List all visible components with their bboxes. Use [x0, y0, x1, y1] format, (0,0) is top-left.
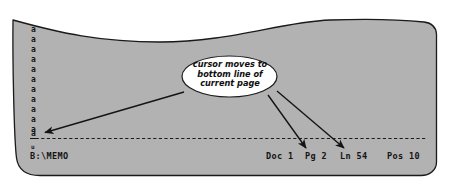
status-filename: B:\MEMO: [30, 152, 69, 161]
status-line: Ln 54: [340, 152, 368, 161]
status-page: Pg 2: [305, 152, 327, 161]
callout-line-3: current page: [180, 79, 280, 89]
document-char: a: [31, 116, 36, 124]
document-char: a: [31, 56, 36, 64]
status-position: Pos 10: [387, 152, 420, 161]
document-char: a: [31, 106, 36, 114]
document-char: a: [31, 26, 36, 34]
text-cursor: a: [31, 130, 36, 139]
document-char: a: [31, 96, 36, 104]
figure-stage: a a a a a a a a a a a a u B:\MEMO Doc 1 …: [0, 0, 449, 184]
document-char: a: [31, 76, 36, 84]
document-char: a: [31, 66, 36, 74]
document-char: a: [31, 36, 36, 44]
document-char: a: [31, 86, 36, 94]
trailing-char: u: [31, 144, 35, 150]
status-doc: Doc 1: [266, 152, 294, 161]
document-char: a: [31, 46, 36, 54]
callout-label: cursor moves to bottom line of current p…: [180, 60, 280, 89]
